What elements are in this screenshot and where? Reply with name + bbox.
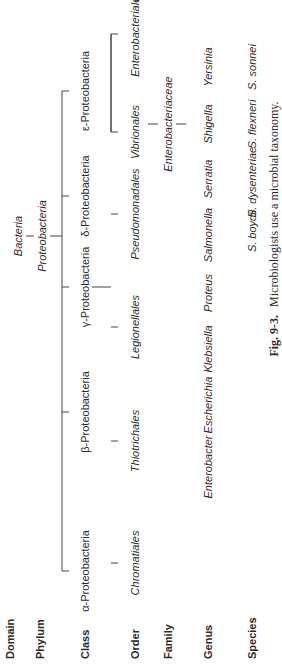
class-delta: δ-Proteobacteria bbox=[79, 155, 91, 236]
domain-bacteria: Bacteria bbox=[12, 216, 24, 256]
order-thiotrichales: Thiotrichales bbox=[129, 410, 141, 472]
order-pasteurellales: Pasteurellales bbox=[129, 0, 141, 2]
rank-genus: Genus bbox=[202, 625, 214, 659]
genus-klebsiella: Klebsiella bbox=[202, 325, 214, 372]
genus-serratia: Serratia bbox=[202, 160, 214, 199]
order-pseudomonadales: Pseudomonadales bbox=[129, 168, 141, 259]
genus-enterobacter: Enterobacter bbox=[202, 436, 214, 499]
species-s-dysenteriae: S. dysenteriae bbox=[246, 147, 258, 217]
species-s-flexneri: S. flexneri bbox=[246, 100, 258, 149]
taxonomy-figure: Domain Phylum Class Order Family Genus S… bbox=[0, 0, 282, 667]
class-beta: β-Proteobacteria bbox=[79, 371, 91, 453]
rank-phylum: Phylum bbox=[34, 619, 46, 659]
class-epsilon: ε-Proteobacteria bbox=[79, 51, 91, 131]
family-enterobacteriaceae: Enterobacteriaceae bbox=[162, 76, 174, 171]
species-s-sonnei: S. sonnei bbox=[246, 44, 258, 90]
class-gamma: γ-Proteobacteria bbox=[79, 247, 91, 328]
order-chromatiales: Chromatiales bbox=[129, 531, 141, 596]
order-enterobacteriales: Enterobacteriales bbox=[129, 0, 141, 77]
genus-yersinia: Yersinia bbox=[202, 47, 214, 86]
order-legionellales: Legionellales bbox=[129, 295, 141, 359]
genus-escherichia: Escherichia bbox=[202, 377, 214, 434]
phylum-proteobacteria: Proteobacteria bbox=[36, 200, 48, 272]
rank-order: Order bbox=[129, 629, 141, 659]
rank-species: Species bbox=[246, 617, 258, 659]
order-vibrionales: Vibrionales bbox=[129, 105, 141, 159]
rank-class: Class bbox=[79, 630, 91, 659]
figure-caption-text: Microbiologists use a microbial taxonomy… bbox=[267, 101, 281, 307]
tree-connector-lines bbox=[0, 0, 282, 667]
genus-shigella: Shigella bbox=[202, 104, 214, 143]
rank-domain: Domain bbox=[4, 619, 16, 659]
class-alpha: α-Proteobacteria bbox=[79, 530, 91, 612]
genus-salmonella: Salmonella bbox=[202, 208, 214, 262]
figure-number: Fig. 9-3. bbox=[267, 315, 281, 357]
figure-caption: Fig. 9-3.Microbiologists use a microbial… bbox=[267, 101, 282, 356]
genus-proteus: Proteus bbox=[202, 274, 214, 312]
rank-family: Family bbox=[162, 624, 174, 659]
